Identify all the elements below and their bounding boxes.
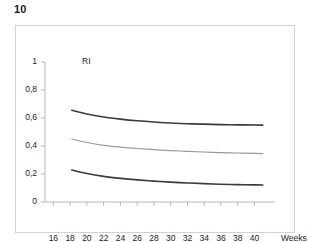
chart-line-median <box>72 139 263 154</box>
x-axis-tick-label: 26 <box>129 233 145 242</box>
x-axis-tick-label: 16 <box>45 233 61 242</box>
x-axis-tick-label: 24 <box>112 233 128 242</box>
x-axis-tick-label: 40 <box>246 233 262 242</box>
x-axis-title: Weeks <box>281 233 307 242</box>
x-axis-tick-label: 38 <box>230 233 246 242</box>
x-axis-tick-label: 18 <box>62 233 78 242</box>
chart-line-lower-percentile <box>72 170 263 185</box>
y-axis-tick-label: 0,2 <box>11 168 37 178</box>
figure-number: 10 <box>14 3 27 15</box>
y-axis-title: RI <box>82 56 91 66</box>
y-axis-tick-label: 1 <box>11 56 37 66</box>
x-axis-tick-label: 30 <box>163 233 179 242</box>
chart-plot-area <box>16 26 296 234</box>
y-axis-tick-label: 0,6 <box>11 112 37 122</box>
x-axis-tick-label: 32 <box>179 233 195 242</box>
y-axis-tick-label: 0,4 <box>11 140 37 150</box>
x-axis-tick-label: 20 <box>79 233 95 242</box>
x-axis-tick-label: 28 <box>146 233 162 242</box>
chart-frame: RI Weeks 00,20,40,60,81 1618202224262830… <box>15 25 295 233</box>
x-axis-tick-label: 36 <box>213 233 229 242</box>
y-axis-tick-label: 0,8 <box>11 84 37 94</box>
x-axis-tick-label: 34 <box>196 233 212 242</box>
chart-series <box>72 110 263 185</box>
x-axis-tick-label: 22 <box>96 233 112 242</box>
figure-container: 10 RI Weeks 00,20,40,60,81 1618202224262… <box>0 0 309 242</box>
y-axis-tick-label: 0 <box>11 196 37 206</box>
chart-line-upper-percentile <box>72 110 263 125</box>
